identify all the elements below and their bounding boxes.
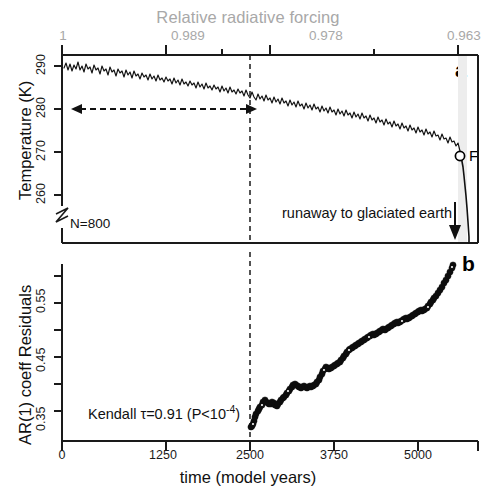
panel-b-ar1-scatter — [248, 262, 456, 430]
panel-b-frame — [62, 264, 478, 441]
plot-canvas — [0, 0, 496, 496]
panel-a-window-arrow — [71, 104, 257, 114]
panel-a-y-ticks — [54, 66, 62, 195]
panel-a-top-ticks — [62, 45, 458, 55]
panel-a-frame — [62, 55, 478, 243]
panel-a-marker-f-circle — [455, 151, 464, 160]
panel-b-y-ticks — [54, 276, 62, 411]
figure-root: Relative radiative forcing 1 0.989 0.978… — [0, 0, 496, 496]
panel-b-bottom-ticks — [62, 441, 478, 451]
panel-a-axis-break-icon — [56, 208, 68, 222]
